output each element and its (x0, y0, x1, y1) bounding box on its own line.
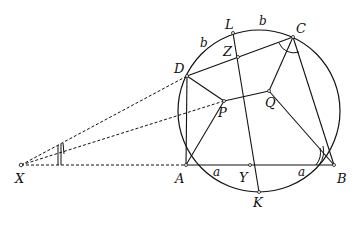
label-D: D (173, 61, 185, 76)
label-X: X (14, 171, 25, 186)
label-P: P (217, 105, 227, 120)
solid-segments (186, 33, 334, 192)
label-A: A (174, 171, 184, 186)
arc-label-b-top: b (259, 14, 267, 28)
label-L: L (224, 17, 234, 32)
arc-label-b-left: b (200, 36, 208, 50)
label-Z: Z (222, 44, 233, 59)
arc-label-a-left: a (213, 165, 220, 179)
angle-marks (58, 43, 324, 165)
geometry-diagram: X A B C D L Z P Q Y K b b a a (0, 0, 358, 225)
label-C: C (296, 21, 306, 36)
arc-label-a-right: a (298, 165, 305, 179)
label-B: B (336, 171, 347, 186)
label-K: K (252, 195, 264, 210)
label-Q: Q (265, 95, 276, 110)
circumcircle (178, 30, 340, 192)
label-Y: Y (239, 170, 249, 185)
